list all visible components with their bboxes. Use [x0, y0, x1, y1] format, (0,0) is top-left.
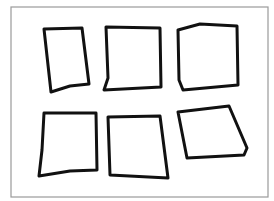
shape-1 [44, 28, 89, 92]
shape-2 [104, 27, 161, 90]
shape-4 [39, 113, 97, 176]
hand-drawn-rectangles [39, 24, 247, 178]
shape-3 [178, 24, 238, 90]
outer-frame [11, 7, 268, 197]
shape-6 [178, 106, 247, 158]
shape-5 [108, 116, 168, 178]
sketch-canvas [0, 0, 274, 201]
